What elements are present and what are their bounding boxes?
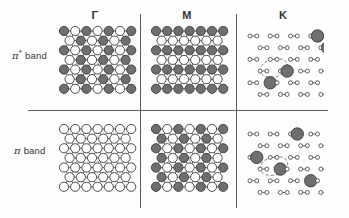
panel-pi-star-gamma (58, 24, 138, 108)
panel-pi-gamma (58, 122, 138, 206)
horizontal-divider (28, 110, 328, 111)
vertical-divider-2 (236, 14, 237, 208)
band-word: band (25, 50, 47, 61)
column-header-m: M (152, 9, 222, 21)
vertical-divider-1 (140, 14, 141, 208)
column-header-gamma: Γ (60, 9, 130, 21)
lattice-pi-m (150, 122, 232, 206)
graphene-band-figure: Γ M K π* band π band (0, 0, 349, 218)
lattice-pi-gamma (58, 122, 138, 206)
panel-pi-k (244, 124, 324, 204)
panel-pi-m (150, 122, 232, 206)
lattice-pi-star-k (244, 26, 324, 106)
star-symbol: * (19, 48, 22, 57)
panel-pi-star-m (150, 24, 232, 108)
row-label-pi-star: π* band (12, 50, 47, 61)
lattice-pi-star-gamma (58, 24, 138, 108)
panel-pi-star-k (244, 26, 324, 106)
lattice-pi-star-m (150, 24, 232, 108)
row-label-pi: π band (14, 145, 46, 156)
column-header-k: K (248, 9, 318, 21)
band-word: band (24, 145, 46, 156)
lattice-pi-k (244, 124, 324, 204)
pi-symbol: π (14, 145, 21, 156)
pi-symbol: π (12, 50, 19, 61)
